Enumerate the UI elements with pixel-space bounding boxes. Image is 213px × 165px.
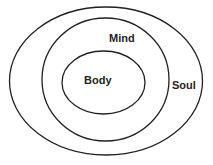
nested-ellipse-diagram: Mind Body Soul bbox=[0, 0, 213, 165]
body-label: Body bbox=[84, 75, 112, 86]
mind-label: Mind bbox=[109, 33, 135, 44]
soul-label: Soul bbox=[172, 80, 196, 91]
